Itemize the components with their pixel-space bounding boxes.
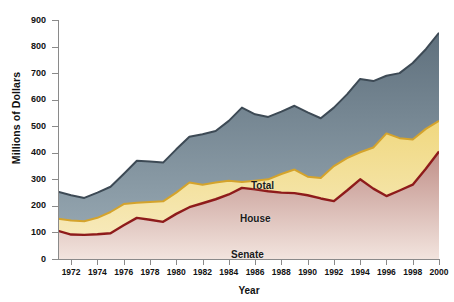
x-tick-mark xyxy=(150,260,151,265)
plot-area: Total House Senate xyxy=(58,20,439,259)
y-tick-label: 800 xyxy=(14,42,46,51)
series-label-total: Total xyxy=(251,180,274,191)
x-tick-mark xyxy=(281,260,282,265)
y-tick-mark xyxy=(52,126,58,127)
x-tick-mark xyxy=(203,260,204,265)
x-tick-mark xyxy=(439,260,440,265)
y-tick-mark xyxy=(52,47,58,48)
y-tick-mark xyxy=(52,179,58,180)
y-axis-line xyxy=(58,20,59,260)
y-tick-mark xyxy=(52,259,58,260)
y-tick-mark xyxy=(52,20,58,21)
y-tick-mark xyxy=(52,206,58,207)
y-axis-title: Millions of Dollars xyxy=(10,58,22,178)
x-tick-mark xyxy=(308,260,309,265)
series-label-house: House xyxy=(240,213,271,224)
x-tick-mark xyxy=(97,260,98,265)
x-tick-mark xyxy=(413,260,414,265)
x-tick-mark xyxy=(334,260,335,265)
y-tick-label: 100 xyxy=(14,228,46,237)
y-tick-mark xyxy=(52,153,58,154)
x-tick-mark xyxy=(386,260,387,265)
x-axis-title: Year xyxy=(58,285,440,296)
x-tick-mark xyxy=(255,260,256,265)
x-tick-mark xyxy=(124,260,125,265)
y-tick-label: 0 xyxy=(14,255,46,264)
series-area-group xyxy=(58,33,439,259)
x-tick-label: 2000 xyxy=(419,268,454,277)
y-tick-label: 200 xyxy=(14,201,46,210)
y-tick-mark xyxy=(52,232,58,233)
x-tick-mark xyxy=(71,260,72,265)
x-tick-mark xyxy=(360,260,361,265)
chart-container: Total House Senate 010020030040050060070… xyxy=(0,0,454,302)
x-tick-mark xyxy=(229,260,230,265)
y-tick-label: 900 xyxy=(14,16,46,25)
y-tick-mark xyxy=(52,100,58,101)
x-axis-line xyxy=(58,259,440,260)
x-tick-mark xyxy=(176,260,177,265)
y-tick-mark xyxy=(52,73,58,74)
